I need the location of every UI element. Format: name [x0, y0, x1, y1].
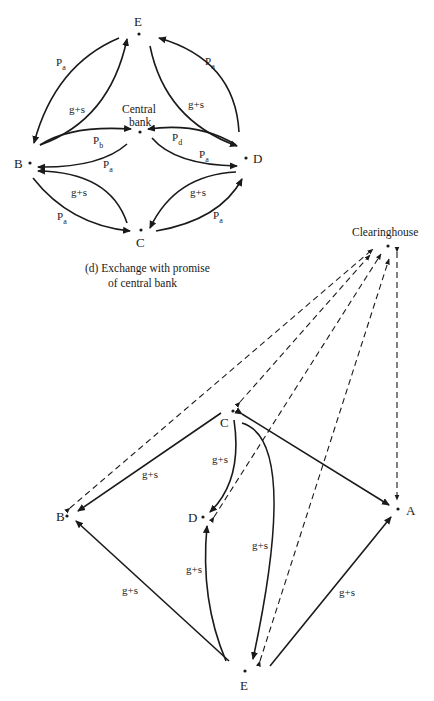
node-central-bank-dot: [138, 130, 141, 133]
node-a2-dot: [396, 507, 399, 510]
label-pa-dc: Pa: [213, 209, 223, 225]
edge-d-to-cb-pd: [148, 127, 236, 145]
edge-cb-to-d-pa: [152, 138, 237, 166]
node-c2-dot: [231, 409, 234, 412]
node-b-dot: [28, 161, 31, 164]
node-clearinghouse-dot: [386, 244, 389, 247]
node-central-bank-label-2: bank: [129, 116, 152, 128]
node-e-label: E: [134, 14, 142, 29]
label-pa-bc: Pa: [57, 210, 67, 226]
edge-e-to-b-pa: [34, 38, 119, 143]
label-pa-cb-b: Pa: [103, 158, 113, 174]
node-d2-dot: [201, 515, 204, 518]
caption-line-2: of central bank: [108, 277, 177, 289]
diagram-canvas: E B C D Central bank Pa g+s Pa g+s Pb Pa…: [0, 0, 434, 701]
edge-b-to-cb-pb: [40, 128, 131, 145]
edge-a-c-bidirectional: [242, 414, 389, 505]
label-pa-cb-d: Pa: [199, 148, 209, 164]
label-gs-bc: g+s: [71, 186, 87, 198]
edge-e-to-d: [206, 526, 226, 661]
node-e2-label: E: [240, 678, 248, 693]
label-gs-ed: g+s: [186, 563, 202, 575]
label-gs-ea: g+s: [339, 586, 355, 598]
figure-d-central-bank: E B C D Central bank Pa g+s Pa g+s Pb Pa…: [14, 14, 262, 289]
label-gs-eb: g+s: [122, 584, 138, 596]
label-pa-de: Pa: [205, 55, 215, 71]
node-clearinghouse-label: Clearinghouse: [352, 226, 418, 239]
caption-line-1: (d) Exchange with promise: [85, 262, 210, 275]
node-a2-label: A: [406, 503, 416, 518]
label-gs-cb: g+s: [142, 468, 158, 480]
node-c2-label: C: [220, 415, 229, 430]
node-c-label: C: [136, 235, 145, 250]
edge-c-to-d: [210, 420, 236, 512]
label-gs-dc: g+s: [190, 186, 206, 198]
label-gs-de: g+s: [188, 98, 204, 110]
label-pb: Pb: [93, 134, 103, 150]
dashed-edge-d-clearinghouse: [214, 254, 381, 517]
label-gs-ce: g+s: [252, 539, 268, 551]
edge-cb-to-b-pa: [38, 144, 127, 167]
edge-c-to-b: [78, 413, 221, 511]
node-b-label: B: [14, 156, 23, 171]
label-pa-be: Pa: [56, 56, 66, 72]
dashed-edge-e-clearinghouse: [260, 259, 389, 661]
edge-d-to-c-gs: [150, 172, 236, 228]
edge-e-to-d-gs: [150, 46, 237, 146]
node-e2-dot: [243, 669, 246, 672]
node-d-label: D: [253, 151, 262, 166]
node-c-dot: [139, 228, 142, 231]
node-d2-label: D: [188, 510, 197, 525]
node-central-bank-label-1: Central: [122, 103, 156, 115]
label-gs-be: g+s: [69, 103, 85, 115]
node-b2-label: B: [56, 509, 65, 524]
edge-e-to-a: [270, 517, 391, 666]
node-b2-dot: [65, 514, 68, 517]
figure-clearinghouse: Clearinghouse C B D A E g+s g+s g+s g+s …: [56, 226, 418, 693]
label-pd: Pd: [172, 131, 182, 147]
edge-d-to-e-pa: [159, 38, 239, 132]
label-gs-cd: g+s: [212, 453, 228, 465]
node-e-dot: [137, 32, 140, 35]
node-d-dot: [244, 156, 247, 159]
